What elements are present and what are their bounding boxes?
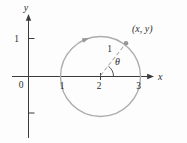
angle-theta-label: θ: [115, 56, 120, 67]
x-tick-3-label: 3: [136, 81, 141, 91]
point-marker: [124, 41, 129, 46]
radius-length-label: 1: [107, 44, 112, 54]
origin-label: 0: [19, 80, 24, 90]
y-tick-1-label: 1: [14, 34, 19, 44]
x-tick-2-label: 2: [97, 81, 102, 91]
x-tick-1-label: 1: [60, 81, 65, 91]
point-coordinates-label: (x, y): [132, 23, 153, 35]
y-axis-arrow-icon: [26, 14, 31, 21]
figure-canvas: y x 0 1 1 2 3 1 θ (x, y): [0, 0, 187, 143]
x-axis-arrow-icon: [147, 74, 154, 79]
angle-arc: [109, 66, 114, 76]
motion-direction-arrow-icon: [82, 38, 89, 43]
x-axis-label: x: [157, 71, 163, 82]
axis-ticks: [29, 39, 101, 114]
y-axis-label: y: [23, 2, 29, 13]
circle-diagram: y x 0 1 1 2 3 1 θ (x, y): [0, 0, 187, 143]
